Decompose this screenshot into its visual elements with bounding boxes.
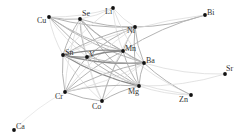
node-label: Co	[92, 102, 101, 111]
edge-ni-mg	[134, 27, 139, 86]
edge-sn-cr	[62, 55, 65, 92]
edge-cu-sn	[49, 17, 63, 55]
node-label: Sn	[65, 48, 73, 57]
node-label: Ca	[16, 122, 25, 131]
node-sr[interactable]: Sr	[223, 64, 233, 76]
node-cr[interactable]: Cr	[55, 90, 67, 101]
node-label: Se	[82, 9, 90, 18]
edge-li-ni	[113, 8, 135, 27]
edge-cu-mn	[49, 17, 123, 51]
edge-layer	[14, 8, 225, 130]
node-label: Li	[105, 7, 113, 16]
node-dot[interactable]	[189, 93, 193, 97]
node-label: Sr	[226, 64, 233, 73]
edge-li-mn	[113, 8, 123, 51]
node-label: Cr	[55, 92, 63, 101]
node-ba[interactable]: Ba	[142, 56, 155, 65]
node-cu[interactable]: Cu	[37, 15, 51, 25]
node-ca[interactable]: Ca	[12, 122, 25, 132]
node-label: Ni	[127, 26, 136, 35]
edge-ba-sr	[144, 63, 225, 74]
node-label: Ba	[146, 56, 155, 65]
node-label: V	[89, 50, 95, 59]
network-diagram: CuSeLiNiBiMnSnVBaSrMgZnCrCoCa	[0, 0, 243, 140]
node-label: Cu	[37, 16, 46, 25]
node-dot[interactable]	[63, 90, 67, 94]
node-sn[interactable]: Sn	[61, 48, 73, 57]
node-label: Zn	[179, 95, 188, 104]
node-bi[interactable]: Bi	[203, 8, 215, 17]
node-label: Bi	[207, 8, 215, 17]
edge-ni-bi	[135, 15, 205, 27]
node-dot[interactable]	[47, 15, 51, 19]
node-label: Mn	[125, 44, 136, 53]
edge-ba-zn	[144, 63, 191, 95]
node-label: Mg	[128, 87, 139, 96]
edge-mg-sr	[139, 74, 225, 86]
node-layer: CuSeLiNiBiMnSnVBaSrMgZnCrCoCa	[12, 6, 233, 132]
node-zn[interactable]: Zn	[179, 93, 193, 104]
